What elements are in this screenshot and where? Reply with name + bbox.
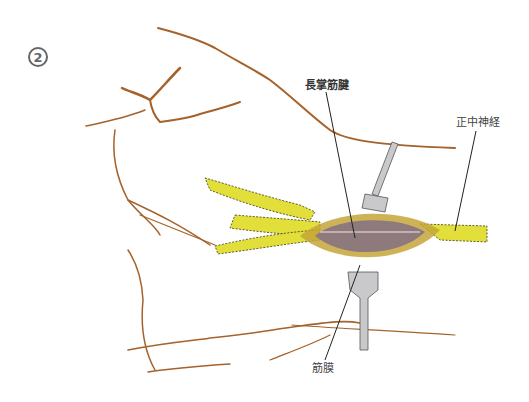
step-number-badge: 2 xyxy=(28,47,48,67)
illustration-canvas xyxy=(0,0,529,402)
label-median-nerve: 正中神経 xyxy=(456,117,500,128)
label-palmaris-longus-tendon: 長掌筋腱 xyxy=(305,80,349,91)
label-fascia: 筋膜 xyxy=(312,363,334,374)
incision-area xyxy=(300,214,440,258)
surgical-illustration: 2 長掌筋腱 正中神経 筋膜 xyxy=(0,0,529,402)
